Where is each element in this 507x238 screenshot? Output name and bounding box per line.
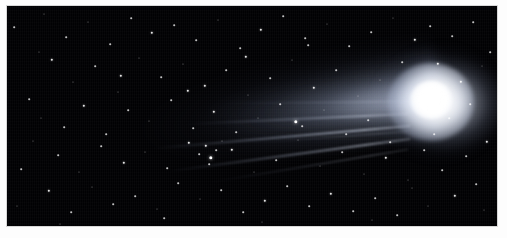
comet-ion-streamer [205, 149, 408, 184]
night-sky-plate [6, 5, 498, 227]
comet-photograph-figure [0, 0, 507, 238]
comet-ion-streamer [166, 138, 410, 172]
comet-nucleus [410, 81, 452, 119]
comet [6, 5, 498, 227]
